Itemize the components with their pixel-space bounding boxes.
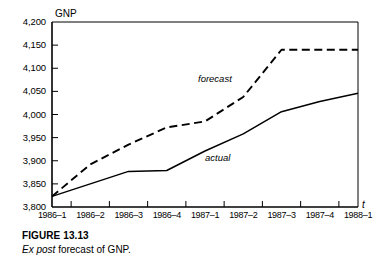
- y-tick-label: 4,150: [4, 39, 46, 50]
- y-tick-label: 3,900: [4, 155, 46, 166]
- figure-description-rest: forecast of GNP.: [55, 244, 130, 255]
- y-tick-label: 4,100: [4, 62, 46, 73]
- figure-13-13: GNP t forecast actual 3,8003,8503,9003,9…: [0, 0, 386, 265]
- y-tick-label: 3,850: [4, 178, 46, 189]
- y-tick-label: 4,050: [4, 85, 46, 96]
- figure-caption: FIGURE 13.13 Ex post forecast of GNP.: [22, 230, 382, 256]
- chart-plot-area: GNP t forecast actual 3,8003,8503,9003,9…: [0, 0, 386, 215]
- chart-canvas: [0, 0, 386, 215]
- series-line-forecast: [52, 50, 358, 197]
- series-line-actual: [52, 93, 358, 196]
- y-tick-label: 4,200: [4, 16, 46, 27]
- y-tick-label: 4,000: [4, 109, 46, 120]
- figure-number: FIGURE 13.13: [22, 230, 382, 243]
- x-tick-label: 1988–1: [335, 210, 381, 220]
- figure-description-emphasis: Ex post: [22, 244, 55, 255]
- x-axis-title: t: [362, 199, 365, 210]
- y-tick-label: 3,950: [4, 132, 46, 143]
- series-annotation-actual: actual: [205, 152, 230, 163]
- series-annotation-forecast: forecast: [198, 73, 232, 84]
- y-axis-title: GNP: [55, 8, 77, 19]
- figure-description: Ex post forecast of GNP.: [22, 244, 382, 257]
